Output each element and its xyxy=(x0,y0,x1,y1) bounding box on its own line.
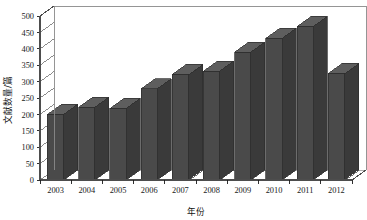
y-tick-labels: 050100150200250300350400450500 xyxy=(21,12,34,185)
bar-2008 xyxy=(203,61,233,180)
x-tick-label: 2009 xyxy=(234,186,251,195)
bar-2012 xyxy=(328,63,358,180)
y-tick-label: 150 xyxy=(21,127,34,136)
x-tick-labels: 2003200420052006200720082009201020112012 xyxy=(47,186,345,195)
bar-2009 xyxy=(235,42,265,180)
bar-side-face xyxy=(157,79,171,180)
bar-front-face xyxy=(172,74,188,180)
x-axis-title: 年份 xyxy=(187,206,205,217)
x-tick-label: 2010 xyxy=(266,186,283,195)
bar-side-face xyxy=(95,97,109,180)
bar-side-face xyxy=(282,28,296,180)
bar-side-face xyxy=(345,63,359,180)
bar-side-face xyxy=(126,98,140,180)
y-tick-label: 450 xyxy=(21,29,34,38)
x-tick-label: 2005 xyxy=(110,186,127,195)
y-tick-label: 50 xyxy=(26,160,34,169)
y-tick-label: 250 xyxy=(21,94,34,103)
x-tick-label: 2011 xyxy=(297,186,313,195)
y-tick-label: 350 xyxy=(21,61,34,70)
bar-2003 xyxy=(47,104,77,180)
bar-front-face xyxy=(328,73,344,180)
gridline-depth-connector xyxy=(40,55,54,65)
y-tick-label: 400 xyxy=(21,45,34,54)
bar-2007 xyxy=(172,64,202,180)
x-tick-label: 2008 xyxy=(203,186,220,195)
bar-side-face xyxy=(251,42,265,180)
bar-2004 xyxy=(79,97,109,180)
bar-front-face xyxy=(47,114,63,180)
gridline-depth-connector xyxy=(40,39,54,49)
x-tick-label: 2007 xyxy=(172,186,189,195)
bar-front-face xyxy=(203,71,219,180)
bar-front-face xyxy=(110,108,126,180)
y-axis-title: 文献数量/篇 xyxy=(2,76,13,124)
y-tick-label: 500 xyxy=(21,12,34,21)
bar-2006 xyxy=(141,79,171,180)
bar-side-face xyxy=(64,104,78,180)
bar-front-face xyxy=(266,38,282,180)
bar-2005 xyxy=(110,98,140,180)
bar-side-face xyxy=(313,16,327,180)
plot-top-left-edge xyxy=(40,6,54,16)
gridline-depth-connector xyxy=(40,88,54,98)
bar-front-face xyxy=(141,89,157,180)
y-tick-label: 100 xyxy=(21,143,34,152)
x-tick-label: 2003 xyxy=(47,186,64,195)
bar-front-face xyxy=(297,26,313,180)
x-tick-label: 2004 xyxy=(78,186,96,195)
bar-2010 xyxy=(266,28,296,180)
chart-container: 050100150200250300350400450500 200320042… xyxy=(0,0,367,220)
x-tick-label: 2012 xyxy=(328,186,345,195)
y-tick-label: 200 xyxy=(21,111,34,120)
bar-front-face xyxy=(79,107,95,180)
bar-2011 xyxy=(297,16,327,180)
x-tick-label: 2006 xyxy=(141,186,158,195)
gridline-depth-connector xyxy=(40,22,54,32)
bar-side-face xyxy=(189,64,203,180)
y-tick-label: 0 xyxy=(30,176,34,185)
bar-front-face xyxy=(235,52,251,180)
y-tick-label: 300 xyxy=(21,78,34,87)
bar-side-face xyxy=(220,61,234,180)
gridline-depth-connector xyxy=(40,72,54,82)
bar-chart: 050100150200250300350400450500 200320042… xyxy=(0,0,367,220)
